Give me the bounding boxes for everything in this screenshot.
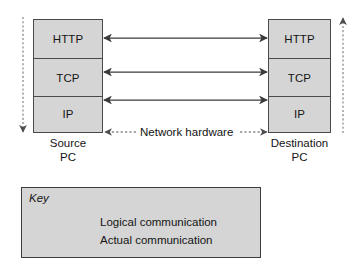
source-layer-http-label: HTTP — [53, 33, 83, 45]
key-entry-logical-label: Logical communication — [100, 216, 217, 228]
destination-layer-ip-label: IP — [294, 108, 305, 120]
destination-layer-ip: IP — [269, 96, 330, 131]
network-hardware-label: Network hardware — [140, 126, 233, 138]
source-pc-caption-line2: PC — [23, 150, 113, 164]
source-layer-tcp-label: TCP — [56, 72, 79, 84]
destination-protocol-stack: HTTP TCP IP — [268, 19, 331, 133]
destination-layer-http: HTTP — [269, 20, 330, 58]
source-layer-ip: IP — [34, 96, 102, 131]
source-protocol-stack: HTTP TCP IP — [33, 19, 103, 133]
network-layer-diagram: HTTP TCP IP HTTP TCP IP Source PC Destin… — [0, 0, 363, 270]
destination-pc-caption-line2: PC — [252, 150, 347, 164]
source-layer-tcp: TCP — [34, 58, 102, 96]
source-pc-caption-line1: Source — [23, 136, 113, 150]
source-layer-ip-label: IP — [62, 108, 73, 120]
source-layer-http: HTTP — [34, 20, 102, 58]
destination-pc-caption-line1: Destination — [252, 136, 347, 150]
source-pc-caption: Source PC — [23, 136, 113, 164]
destination-layer-tcp: TCP — [269, 58, 330, 96]
destination-layer-tcp-label: TCP — [288, 72, 311, 84]
destination-pc-caption: Destination PC — [252, 136, 347, 164]
key-title: Key — [29, 192, 49, 204]
key-entry-actual-label: Actual communication — [100, 234, 213, 246]
destination-layer-http-label: HTTP — [284, 33, 314, 45]
